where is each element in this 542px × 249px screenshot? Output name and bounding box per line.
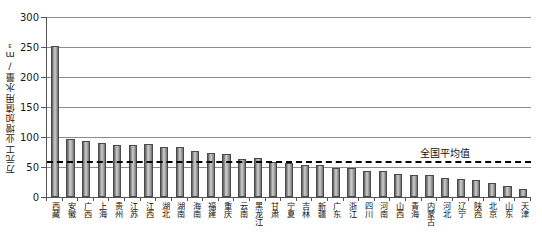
x-tick — [249, 197, 250, 201]
bar — [113, 145, 121, 197]
x-tick — [108, 197, 109, 201]
y-tick-label: 150 — [20, 102, 39, 113]
x-axis-category-label: 湖南 — [173, 202, 184, 218]
bar — [176, 147, 184, 197]
x-tick — [468, 197, 469, 201]
x-tick — [374, 197, 375, 201]
bar — [441, 178, 449, 197]
y-tick-label: 300 — [20, 12, 39, 23]
bar-chart: 万元工业增加值用水量/m³ 050100150200250300 全国平均值 西… — [0, 0, 542, 249]
x-tick — [343, 197, 344, 201]
bar — [144, 144, 152, 197]
bar — [472, 180, 480, 197]
x-axis-category-label: 江西 — [142, 202, 153, 218]
x-tick — [296, 197, 297, 201]
x-tick — [155, 197, 156, 201]
y-tick-label: 50 — [26, 162, 39, 173]
bar — [519, 189, 527, 197]
bar — [207, 153, 215, 197]
bar — [457, 179, 465, 197]
bar — [363, 171, 371, 197]
bar — [254, 158, 262, 197]
x-axis-category-label: 重庆 — [220, 202, 231, 218]
x-axis-category-label: 陕西 — [470, 202, 481, 218]
bar — [191, 151, 199, 197]
plot-area — [46, 17, 531, 198]
bar — [316, 165, 324, 197]
bar — [394, 174, 402, 197]
x-tick — [452, 197, 453, 201]
bar — [285, 163, 293, 197]
bar — [129, 145, 137, 197]
x-axis-category-label: 广西 — [80, 202, 91, 218]
x-axis-category-label: 云南 — [236, 202, 247, 218]
x-axis-category-label: 湖北 — [158, 202, 169, 218]
national-average-line — [47, 161, 531, 163]
x-axis-category-label: 黑龙江 — [251, 202, 262, 226]
x-tick — [62, 197, 63, 201]
bar — [82, 141, 90, 197]
x-axis-category-label: 海南 — [189, 202, 200, 218]
x-tick — [187, 197, 188, 201]
x-tick — [483, 197, 484, 201]
x-axis-category-label: 江苏 — [126, 202, 137, 218]
bar-series — [47, 17, 531, 197]
x-axis-category-label: 宁夏 — [283, 202, 294, 218]
y-axis-title: 万元工业增加值用水量/m³ — [2, 14, 18, 198]
x-tick — [140, 197, 141, 201]
x-axis-labels: 西藏安徽广西上海贵州江苏江西湖北湖南海南福建重庆云南黑龙江甘肃宁夏吉林新疆广东浙… — [46, 202, 530, 249]
x-axis-category-label: 山东 — [501, 202, 512, 218]
x-axis-category-label: 浙江 — [345, 202, 356, 218]
x-tick — [218, 197, 219, 201]
x-axis-category-label: 贵州 — [111, 202, 122, 218]
x-tick — [514, 197, 515, 201]
x-tick — [421, 197, 422, 201]
y-tick-label: 100 — [20, 132, 39, 143]
bar — [425, 175, 433, 197]
x-axis-category-label: 辽宁 — [454, 202, 465, 218]
bar — [488, 183, 496, 197]
x-axis-category-label: 青海 — [407, 202, 418, 218]
x-axis-category-label: 甘肃 — [267, 202, 278, 218]
x-axis-category-label: 安徽 — [64, 202, 75, 218]
bar — [347, 168, 355, 197]
x-tick — [46, 197, 47, 201]
bar — [51, 46, 59, 197]
bar — [160, 147, 168, 197]
x-axis-category-label: 天津 — [517, 202, 528, 218]
x-axis-category-label: 内蒙古 — [423, 202, 434, 226]
x-tick — [311, 197, 312, 201]
x-tick — [171, 197, 172, 201]
bar — [410, 175, 418, 197]
x-tick — [405, 197, 406, 201]
bar — [301, 165, 309, 197]
x-tick — [436, 197, 437, 201]
x-tick — [124, 197, 125, 201]
x-tick — [327, 197, 328, 201]
x-axis-category-label: 北京 — [485, 202, 496, 218]
x-tick — [77, 197, 78, 201]
x-axis-category-label: 广东 — [329, 202, 340, 218]
x-tick — [530, 197, 531, 201]
x-tick — [233, 197, 234, 201]
x-tick — [499, 197, 500, 201]
bar — [269, 162, 277, 197]
x-tick — [93, 197, 94, 201]
bar — [66, 139, 74, 197]
x-tick — [280, 197, 281, 201]
x-tick — [358, 197, 359, 201]
x-axis-category-label: 西藏 — [48, 202, 59, 218]
national-average-label: 全国平均值 — [420, 145, 470, 160]
x-axis-category-label: 上海 — [95, 202, 106, 218]
x-axis-category-label: 河北 — [439, 202, 450, 218]
bar — [98, 143, 106, 197]
x-axis-category-label: 吉林 — [298, 202, 309, 218]
x-axis-category-label: 山西 — [392, 202, 403, 218]
y-tick-label: 0 — [33, 192, 39, 203]
x-axis-category-label: 四川 — [361, 202, 372, 218]
bar — [332, 168, 340, 197]
x-tick — [265, 197, 266, 201]
x-axis-category-label: 河南 — [376, 202, 387, 218]
x-axis-category-label: 新疆 — [314, 202, 325, 218]
y-tick-label: 200 — [20, 72, 39, 83]
